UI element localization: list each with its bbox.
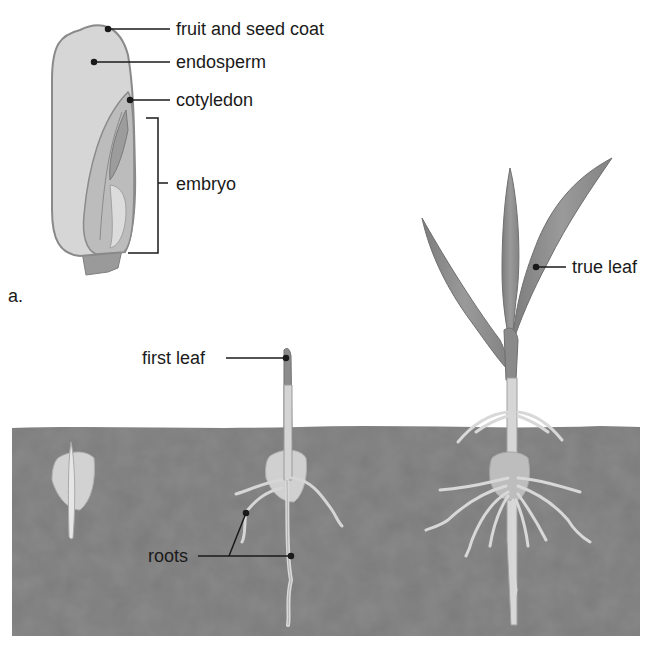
panel-label-a: a. — [8, 286, 23, 306]
soil — [12, 426, 640, 636]
label-roots: roots — [148, 546, 188, 566]
true-leaf-leader — [534, 265, 567, 270]
label-first-leaf: first leaf — [142, 348, 206, 368]
leaf-right — [512, 158, 612, 345]
label-true-leaf: true leaf — [572, 257, 638, 277]
label-embryo: embryo — [176, 174, 236, 194]
label-cotyledon: cotyledon — [176, 90, 253, 110]
label-fruit-and-seed-coat: fruit and seed coat — [176, 19, 324, 39]
corn-germination-diagram: fruit and seed coat endosperm cotyledon … — [0, 0, 652, 648]
leaf-left — [422, 218, 508, 370]
label-endosperm: endosperm — [176, 52, 266, 72]
